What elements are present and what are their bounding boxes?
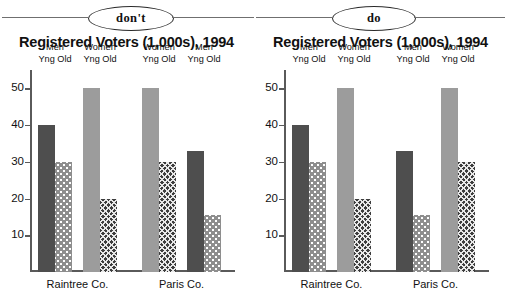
x-axis-category-label: Paris Co. xyxy=(391,278,481,290)
do-badge: do xyxy=(332,6,416,31)
bar-women-yng xyxy=(337,88,354,272)
y-axis-tick xyxy=(25,125,31,126)
x-axis-category-label: Raintree Co. xyxy=(287,278,377,290)
divider-line-left-2 xyxy=(172,17,254,18)
y-axis-tick xyxy=(25,199,31,200)
x-axis-category-label: Paris Co. xyxy=(137,278,227,290)
y-axis-tick-label: 10 xyxy=(256,228,278,240)
y-axis-tick xyxy=(25,162,31,163)
bar-men-old xyxy=(413,215,430,272)
bar-men-old xyxy=(309,162,326,272)
column-header-sub: Yng Old xyxy=(70,54,130,64)
column-header-sub: Yng Old xyxy=(428,54,488,64)
bar-men-yng xyxy=(38,125,55,272)
y-axis-tick-label: 40 xyxy=(2,118,24,130)
y-axis-tick-label: 50 xyxy=(256,81,278,93)
column-header-group: Women xyxy=(324,42,384,52)
column-header-group: Women xyxy=(428,42,488,52)
chart-panel-dont: Registered Voters (1,000s), 199410203040… xyxy=(0,30,253,307)
bar-women-old xyxy=(354,199,371,272)
column-header-sub: Yng Old xyxy=(324,54,384,64)
y-axis xyxy=(30,70,32,272)
y-axis-tick xyxy=(279,199,285,200)
divider-line-left-1 xyxy=(2,17,88,18)
bar-men-yng xyxy=(187,151,204,272)
y-axis-tick xyxy=(279,88,285,89)
y-axis-tick-label: 20 xyxy=(2,192,24,204)
y-axis-tick xyxy=(279,235,285,236)
column-header-group: Men xyxy=(174,42,234,52)
plot-area: 1020304050 xyxy=(30,70,235,272)
x-axis-category-label: Raintree Co. xyxy=(33,278,123,290)
plot-area: 1020304050 xyxy=(284,70,489,272)
y-axis-tick-label: 10 xyxy=(2,228,24,240)
bar-men-yng xyxy=(396,151,413,272)
bar-women-yng xyxy=(83,88,100,272)
column-header-group: Women xyxy=(70,42,130,52)
bar-women-yng xyxy=(142,88,159,272)
y-axis-tick-label: 50 xyxy=(2,81,24,93)
bar-women-old xyxy=(458,162,475,272)
y-axis-tick-label: 30 xyxy=(256,155,278,167)
bar-women-yng xyxy=(441,88,458,272)
bar-women-old xyxy=(159,162,176,272)
column-header-sub: Yng Old xyxy=(174,54,234,64)
y-axis-tick-label: 30 xyxy=(2,155,24,167)
y-axis-tick-label: 40 xyxy=(256,118,278,130)
divider-line-right-2 xyxy=(414,17,505,18)
y-axis-tick xyxy=(25,88,31,89)
badge-row: don't do xyxy=(0,6,507,30)
y-axis-tick xyxy=(279,125,285,126)
do-badge-label: do xyxy=(367,11,381,26)
bar-men-old xyxy=(55,162,72,272)
divider-line-right-1 xyxy=(256,17,332,18)
bar-men-yng xyxy=(292,125,309,272)
y-axis xyxy=(284,70,286,272)
y-axis-tick xyxy=(279,162,285,163)
dont-badge: don't xyxy=(88,6,174,31)
y-axis-tick xyxy=(25,235,31,236)
y-axis-tick-label: 20 xyxy=(256,192,278,204)
bar-men-old xyxy=(204,215,221,272)
comparison-figure: don't do Registered Voters (1,000s), 199… xyxy=(0,0,507,307)
chart-panel-do: Registered Voters (1,000s), 199410203040… xyxy=(254,30,507,307)
dont-badge-label: don't xyxy=(116,11,146,26)
bar-women-old xyxy=(100,199,117,272)
